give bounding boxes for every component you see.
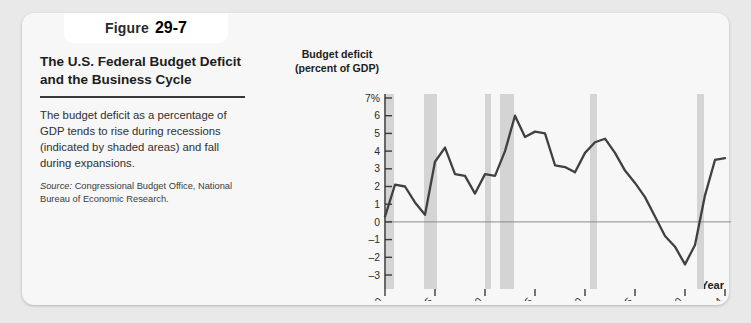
figure-tab: Figure 29-7 (64, 13, 228, 43)
figure-title: The U.S. Federal Budget Deficit and the … (40, 53, 262, 89)
recession-band (697, 94, 704, 289)
recession-band (590, 94, 597, 289)
y-tick-label: –3 (368, 270, 380, 281)
figure-source: Source: Congressional Budget Office, Nat… (40, 180, 250, 205)
title-divider (40, 96, 245, 98)
x-tick-label: 1995 (610, 295, 634, 301)
figure-text-column: The U.S. Federal Budget Deficit and the … (40, 53, 262, 215)
y-tick-label: –1 (368, 234, 380, 245)
y-tick-label: 4 (374, 146, 380, 157)
x-tick-label: 2000 (660, 295, 684, 301)
figure-tab-label: Figure (105, 20, 149, 36)
y-tick-label: 2 (374, 181, 380, 192)
chart-svg: 7%6543210–1–2–31970197519801985199019952… (284, 43, 732, 301)
x-tick-label: 1985 (510, 295, 534, 301)
x-tick-label: 1970 (360, 295, 384, 301)
x-tick-label: 1980 (460, 295, 484, 301)
y-tick-label: –2 (368, 252, 380, 263)
y-tick-label: 1 (374, 199, 380, 210)
y-tick-label: 6 (374, 110, 380, 121)
recession-band (485, 94, 491, 289)
x-tick-label: 2004 (700, 295, 724, 301)
source-label: Source: (40, 181, 72, 191)
figure-card: Figure 29-7 The U.S. Federal Budget Defi… (22, 13, 729, 305)
x-tick-label: 1975 (410, 295, 434, 301)
x-tick-label: 1990 (560, 295, 584, 301)
figure-description: The budget deficit as a percentage of GD… (40, 107, 253, 172)
y-tick-label: 7% (365, 93, 380, 104)
y-tick-label: 0 (374, 217, 380, 228)
y-tick-label: 3 (374, 163, 380, 174)
figure-tab-number: 29-7 (155, 19, 187, 37)
y-tick-label: 5 (374, 128, 380, 139)
chart: Budget deficit (percent of GDP) Year 7%6… (284, 43, 732, 301)
figure-page: Figure 29-7 The U.S. Federal Budget Defi… (0, 0, 751, 323)
